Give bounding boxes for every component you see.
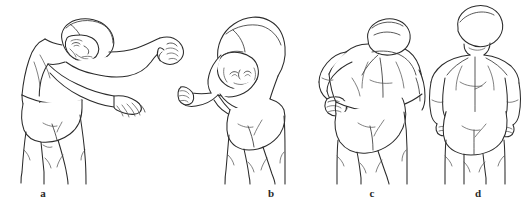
- figure-panel-b: [178, 0, 328, 185]
- figure-d-drawing: [424, 0, 522, 185]
- figure-panel-group: a b c d: [0, 0, 523, 211]
- figure-c-drawing: [312, 0, 430, 185]
- figure-a-drawing: [10, 0, 200, 185]
- figure-panel-a: [10, 0, 200, 185]
- figure-b-drawing: [178, 0, 328, 185]
- figure-panel-d: [424, 0, 522, 185]
- panel-label-a: a: [33, 186, 53, 200]
- figure-panel-c: [312, 0, 430, 185]
- panel-label-row: a b c d: [0, 186, 523, 208]
- panel-label-c: c: [362, 186, 382, 200]
- panel-label-d: d: [468, 186, 488, 200]
- panel-label-b: b: [261, 186, 281, 200]
